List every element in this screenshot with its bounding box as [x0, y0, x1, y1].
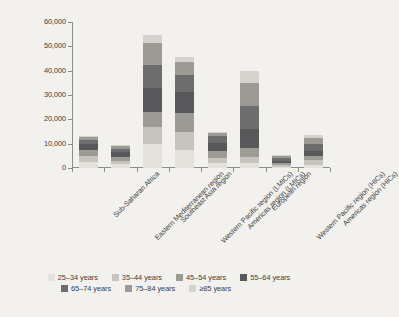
x-tick-label: Sub-Saharan Africa	[112, 170, 161, 219]
legend-item: 45–54 years	[176, 274, 226, 281]
y-axis-line	[72, 22, 73, 168]
legend-item: 75–84 years	[125, 285, 175, 292]
legend-label: 55–64 years	[250, 274, 290, 281]
x-tick-label: Southeast Asia region	[179, 170, 233, 224]
bar-segment	[175, 75, 194, 93]
plot-area: 010,00020,00030,00040,00050,00060,000	[72, 22, 330, 168]
bar-segment	[143, 112, 162, 127]
bar-stack	[79, 136, 98, 168]
legend-label: 75–84 years	[135, 285, 175, 292]
bar-segment	[208, 163, 227, 168]
legend-label: 25–34 years	[58, 274, 98, 281]
bar-segment	[143, 127, 162, 144]
y-tick-label: 30,000	[44, 91, 66, 98]
legend-label: ≥85 years	[199, 285, 231, 292]
bar-segment	[175, 92, 194, 113]
legend-item: 25–34 years	[48, 274, 98, 281]
chart-legend: 25–34 years35–44 years45–54 years55–64 y…	[6, 272, 332, 294]
bar-stack	[111, 145, 130, 168]
x-axis-labels: Sub-Saharan AfricaEastern Mediterranean …	[72, 170, 330, 266]
bar-segment	[304, 165, 323, 168]
bar-segment	[240, 148, 259, 157]
legend-swatch-icon	[240, 274, 247, 281]
legend-item: ≥85 years	[189, 285, 231, 292]
legend-row: 25–34 years35–44 years45–54 years55–64 y…	[6, 272, 332, 283]
legend-swatch-icon	[176, 274, 183, 281]
x-tick-label: Western Pacific region (LMICs)	[220, 170, 295, 245]
bar-segment	[143, 43, 162, 65]
legend-swatch-icon	[61, 285, 68, 292]
bar-stack	[272, 155, 291, 168]
y-tick	[68, 144, 72, 145]
bar-segment	[111, 164, 130, 168]
bar-segment	[240, 71, 259, 84]
bar-segment	[240, 163, 259, 168]
bar-segment	[208, 151, 227, 158]
legend-swatch-icon	[189, 285, 196, 292]
legend-swatch-icon	[112, 274, 119, 281]
bar-stack	[175, 57, 194, 168]
legend-swatch-icon	[125, 285, 132, 292]
legend-label: 65–74 years	[71, 285, 111, 292]
y-tick-label: 0	[62, 164, 66, 171]
bar-segment	[143, 88, 162, 112]
bar-stack	[208, 132, 227, 168]
bar-segment	[175, 113, 194, 132]
bar-segment	[208, 143, 227, 151]
bar-segment	[143, 144, 162, 168]
bar-segment	[175, 132, 194, 150]
legend-item: 55–64 years	[240, 274, 290, 281]
legend-item: 65–74 years	[61, 285, 111, 292]
bar-segment	[175, 150, 194, 168]
y-tick	[68, 46, 72, 47]
bar-segment	[175, 62, 194, 75]
bar-segment	[240, 129, 259, 148]
bar-segment	[79, 162, 98, 168]
bar-stack	[240, 71, 259, 168]
bar-segment	[143, 65, 162, 88]
legend-label: 35–44 years	[122, 274, 162, 281]
legend-swatch-icon	[48, 274, 55, 281]
y-tick-label: 60,000	[44, 18, 66, 25]
bar-stack	[143, 35, 162, 168]
bar-segment	[240, 106, 259, 130]
y-tick	[68, 95, 72, 96]
bar-segment	[272, 167, 291, 168]
y-tick-label: 10,000	[44, 140, 66, 147]
bar-segment	[240, 83, 259, 105]
y-tick-label: 50,000	[44, 43, 66, 50]
legend-item: 35–44 years	[112, 274, 162, 281]
y-tick-label: 40,000	[44, 67, 66, 74]
y-tick	[68, 71, 72, 72]
x-tick-label: Western Pacific region (HICs)	[315, 170, 386, 241]
x-tick	[330, 168, 331, 172]
bar-stack	[304, 135, 323, 168]
y-tick	[68, 119, 72, 120]
legend-row: 65–74 years75–84 years≥85 years	[6, 283, 332, 294]
y-axis-title: People with peripheral artery disease (t…	[0, 0, 19, 14]
y-tick	[68, 22, 72, 23]
y-tick-label: 20,000	[44, 116, 66, 123]
bar-segment	[143, 35, 162, 42]
legend-label: 45–54 years	[186, 274, 226, 281]
